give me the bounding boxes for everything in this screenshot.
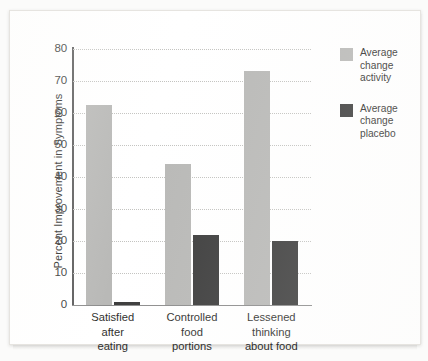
legend-label-line: Average	[360, 47, 398, 60]
legend-swatch	[340, 104, 353, 117]
chart-legend: AveragechangeactivityAveragechangeplaceb…	[340, 47, 422, 159]
x-category-label-line: thinking	[226, 325, 316, 340]
y-tick-label: 60	[37, 106, 67, 118]
y-tick-label: 50	[37, 138, 67, 150]
legend-label: Averagechangeactivity	[360, 47, 398, 85]
legend-label-line: Average	[360, 103, 398, 116]
x-category-label-line: after	[68, 325, 158, 340]
x-category-label: Lessenedthinkingabout food	[226, 310, 316, 354]
plot-area	[73, 49, 311, 305]
chart-figure: Percent Improvement in Symptoms 01020304…	[0, 0, 428, 361]
legend-label-line: activity	[360, 72, 398, 85]
x-category-label-line: eating	[68, 339, 158, 354]
legend-label: Averagechangeplacebo	[360, 103, 398, 141]
gridline	[73, 49, 311, 50]
x-axis-category-labels: SatisfiedaftereatingControlledfoodportio…	[73, 310, 313, 361]
y-tick-label: 40	[37, 170, 67, 182]
bar-placebo	[193, 235, 219, 305]
bar-activity	[86, 105, 112, 305]
bar-placebo	[272, 241, 298, 305]
y-tick-label: 20	[37, 234, 67, 246]
y-tick-label: 10	[37, 266, 67, 278]
x-category-label: Satisfiedaftereating	[68, 310, 158, 354]
gridline	[73, 81, 311, 82]
legend-label-line: placebo	[360, 128, 398, 141]
legend-entry: Averagechangeactivity	[340, 47, 422, 85]
x-category-label-line: Lessened	[226, 310, 316, 325]
legend-entry: Averagechangeplacebo	[340, 103, 422, 141]
bar-placebo	[114, 302, 140, 305]
legend-label-line: change	[360, 115, 398, 128]
y-tick-label: 0	[37, 298, 67, 310]
y-axis-tick-labels: 01020304050607080	[37, 49, 67, 305]
y-tick-label: 80	[37, 42, 67, 54]
chart-paper-panel: Percent Improvement in Symptoms 01020304…	[9, 10, 421, 345]
x-category-label-line: food	[147, 325, 237, 340]
y-tick-label: 30	[37, 202, 67, 214]
y-tick-label: 70	[37, 74, 67, 86]
x-category-label-line: Satisfied	[68, 310, 158, 325]
x-category-label: Controlledfoodportions	[147, 310, 237, 354]
x-category-label-line: Controlled	[147, 310, 237, 325]
x-category-label-line: portions	[147, 339, 237, 354]
legend-swatch	[340, 48, 353, 61]
legend-label-line: change	[360, 60, 398, 73]
bar-activity	[244, 71, 270, 305]
x-category-label-line: about food	[226, 339, 316, 354]
bar-activity	[165, 164, 191, 305]
